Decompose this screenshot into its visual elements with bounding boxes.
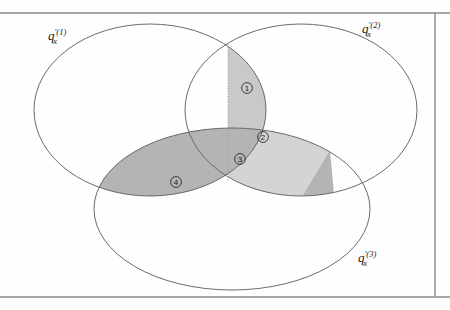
shaded-regions-group xyxy=(0,0,450,310)
venn-diagram-canvas: 1 2 3 4 q′(1)x q′(2)x q′(3)x xyxy=(0,0,450,310)
svg-text:q′(1)x: q′(1)x xyxy=(48,27,66,46)
region-2-label: 2 xyxy=(261,133,266,142)
svg-text:q′(3)x: q′(3)x xyxy=(358,249,376,268)
venn-diagram-figure: 1 2 3 4 q′(1)x q′(2)x q′(3)x xyxy=(0,0,450,310)
set-3-subscript: x xyxy=(362,258,367,268)
region-3-shape-restore xyxy=(0,0,450,310)
set-1-superscript: (1) xyxy=(56,27,66,37)
set-label-3: q′(3)x xyxy=(358,249,376,268)
set-2-subscript: x xyxy=(366,29,371,39)
set-1-subscript: x xyxy=(52,36,57,46)
svg-text:q′(2)x: q′(2)x xyxy=(362,20,380,39)
region-4-label: 4 xyxy=(174,178,179,187)
region-3-label: 3 xyxy=(238,155,243,164)
region-1-label: 1 xyxy=(245,84,250,93)
set-3-superscript: (3) xyxy=(366,249,376,259)
set-2-superscript: (2) xyxy=(370,20,380,30)
set-label-2: q′(2)x xyxy=(362,20,380,39)
set-label-1: q′(1)x xyxy=(48,27,66,46)
